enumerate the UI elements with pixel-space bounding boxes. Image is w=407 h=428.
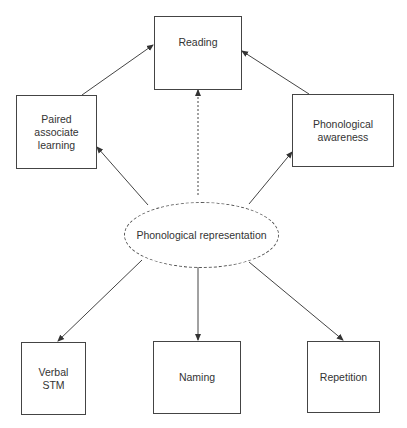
node-phonological-awareness: Phonological awareness (292, 94, 394, 167)
node-repetition-label: Repetition (320, 371, 367, 384)
node-naming-label: Naming (179, 371, 215, 384)
edge-representation-to-paired (97, 147, 148, 205)
node-paired-line3: learning (34, 139, 78, 152)
node-awareness-line1: Phonological (313, 118, 373, 131)
node-phonological-representation: Phonological representation (124, 202, 279, 268)
node-verbal-stm-line2: STM (39, 379, 69, 392)
edge-representation-to-verbal-stm (58, 260, 142, 341)
node-reading-label: Reading (178, 36, 217, 49)
node-paired-associate-learning: Paired associate learning (16, 95, 97, 169)
edge-paired-to-reading (82, 45, 153, 95)
node-representation-line2: representation (199, 229, 266, 241)
edge-awareness-to-reading (242, 51, 309, 94)
node-awareness-line2: awareness (313, 131, 373, 144)
node-repetition: Repetition (307, 341, 380, 413)
node-verbal-stm: Verbal STM (21, 342, 86, 415)
node-verbal-stm-line1: Verbal (39, 366, 69, 379)
edge-representation-to-repetition (249, 262, 343, 340)
edge-representation-to-awareness (249, 152, 292, 204)
node-paired-line2: associate (34, 126, 78, 139)
node-naming: Naming (153, 341, 241, 414)
node-reading: Reading (154, 16, 242, 90)
node-paired-line1: Paired (34, 113, 78, 126)
node-representation-line1: Phonological (136, 229, 196, 241)
